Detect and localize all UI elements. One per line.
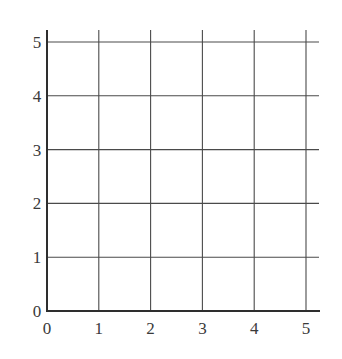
- y-tick-label-2: 2: [33, 194, 42, 213]
- x-tick-label-4: 4: [250, 319, 259, 338]
- x-tick-label-1: 1: [95, 319, 104, 338]
- y-tick-label-1: 1: [33, 248, 42, 267]
- y-tick-label-4: 4: [33, 87, 42, 106]
- y-tick-label-0: 0: [33, 302, 42, 321]
- axes: [46, 30, 320, 312]
- x-tick-label-5: 5: [302, 319, 311, 338]
- y-tick-label-3: 3: [33, 141, 42, 160]
- x-tick-label-3: 3: [198, 319, 207, 338]
- y-tick-label-5: 5: [33, 33, 42, 52]
- grid-lines: [47, 30, 319, 311]
- coordinate-grid: 012345 012345: [0, 0, 342, 359]
- x-tick-label-2: 2: [146, 319, 155, 338]
- x-tick-labels: 012345: [43, 319, 311, 338]
- x-tick-label-0: 0: [43, 319, 52, 338]
- y-tick-labels: 012345: [33, 33, 42, 321]
